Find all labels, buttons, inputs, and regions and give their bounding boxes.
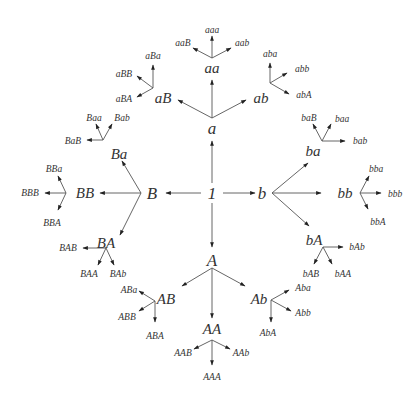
node-B: B [147, 184, 158, 203]
node-AbA: AbA [259, 328, 277, 338]
cayley-graph-diagram: 1 a B b A aa aB ab BB Ba BA bb ba bA AB … [0, 0, 419, 399]
node-BA: BA [97, 235, 116, 251]
node-BBB: BBB [21, 188, 39, 198]
node-AAB: AAB [173, 348, 192, 358]
node-b: b [258, 184, 267, 203]
node-ab: ab [254, 90, 270, 106]
node-Abb: Abb [294, 308, 311, 318]
node-aaB: aaB [175, 38, 191, 48]
node-ba: ba [306, 143, 321, 159]
node-BAb: BAb [110, 269, 127, 279]
node-aBB: aBB [116, 69, 133, 79]
node-bAB: bAB [303, 269, 320, 279]
node-aBa: aBa [145, 51, 161, 61]
node-identity: 1 [208, 184, 217, 203]
node-BAA: BAA [80, 269, 98, 279]
node-bab: bab [353, 136, 368, 146]
node-ABA: ABA [145, 331, 164, 341]
node-A: A [206, 251, 218, 270]
node-AAb: AAb [232, 348, 250, 358]
node-bAA: bAA [335, 269, 352, 279]
node-BaB: BaB [65, 136, 82, 146]
node-BBa: BBa [46, 164, 63, 174]
node-AAA: AAA [202, 372, 221, 382]
node-Ba: Ba [111, 146, 128, 162]
node-BB: BB [76, 185, 94, 201]
node-bAb: bAb [349, 242, 365, 252]
node-a: a [208, 119, 217, 138]
node-AB: AB [156, 291, 175, 307]
node-Baa: Baa [86, 113, 102, 123]
node-bbA: bbA [370, 217, 386, 227]
node-bba: bba [369, 164, 384, 174]
node-baB: baB [301, 113, 317, 123]
node-AA: AA [202, 321, 222, 337]
node-bA: bA [306, 232, 324, 248]
node-Bab: Bab [114, 113, 130, 123]
node-baa: baa [335, 114, 350, 124]
node-aBA: aBA [116, 94, 133, 104]
node-aab: aab [235, 38, 250, 48]
node-abb: abb [295, 64, 310, 74]
node-ABa: ABa [120, 285, 138, 295]
node-BBA: BBA [43, 218, 61, 228]
node-bb: bb [338, 185, 354, 201]
node-aaa: aaa [205, 25, 220, 35]
node-ABB: ABB [117, 312, 136, 322]
node-abA: abA [296, 90, 312, 100]
node-BAB: BAB [59, 243, 77, 253]
node-aba: aba [263, 49, 278, 59]
node-Aba: Aba [294, 283, 311, 293]
node-Ab: Ab [250, 291, 268, 307]
node-bbb: bbb [388, 189, 403, 199]
node-aB: aB [155, 90, 172, 106]
node-aa: aa [205, 60, 220, 76]
